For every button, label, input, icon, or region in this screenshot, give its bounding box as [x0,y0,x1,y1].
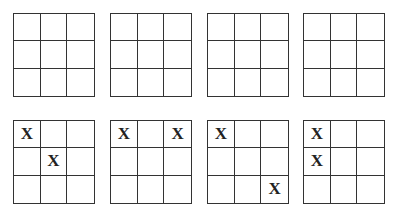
board-cell[interactable] [208,14,235,41]
board-cell[interactable] [304,69,331,96]
board-cell[interactable] [208,148,235,175]
board-cell[interactable] [208,176,235,203]
board-cell[interactable] [111,14,138,41]
board-cell[interactable] [164,14,191,41]
board-cell[interactable] [331,14,358,41]
tic-tac-toe-board [303,13,385,97]
board-cell[interactable] [67,176,94,203]
board-cell[interactable]: X [304,148,331,175]
board-cell[interactable] [261,69,288,96]
board-cell[interactable] [138,176,165,203]
board-cell[interactable] [357,121,384,148]
board-cell[interactable] [41,14,68,41]
board-cell[interactable] [111,41,138,68]
board-cell[interactable] [261,121,288,148]
board-cell[interactable] [331,176,358,203]
board-cell[interactable] [41,176,68,203]
board-cell[interactable] [357,176,384,203]
board-cell[interactable]: X [41,148,68,175]
board-cell[interactable] [331,41,358,68]
board-cell[interactable] [357,14,384,41]
board-cell[interactable] [41,69,68,96]
board-cell[interactable] [14,41,41,68]
board-cell[interactable] [67,14,94,41]
board-cell[interactable] [138,14,165,41]
board-cell[interactable]: X [304,121,331,148]
board-cell[interactable] [164,176,191,203]
board-cell[interactable] [261,41,288,68]
board-cell[interactable] [208,41,235,68]
board-cell[interactable] [357,148,384,175]
tic-tac-toe-board [110,13,192,97]
tic-tac-toe-board: XX [303,120,385,204]
board-cell[interactable]: X [164,121,191,148]
board-cell[interactable] [67,121,94,148]
board-cell[interactable] [208,69,235,96]
board-cell[interactable] [67,41,94,68]
board-cell[interactable] [235,69,262,96]
board-cell[interactable] [67,148,94,175]
tic-tac-toe-board [13,13,95,97]
board-cell[interactable] [235,14,262,41]
board-cell[interactable] [331,69,358,96]
board-cell[interactable] [14,14,41,41]
board-cell[interactable]: X [261,176,288,203]
tic-tac-toe-board: XX [110,120,192,204]
board-cell[interactable] [261,148,288,175]
board-cell[interactable] [164,41,191,68]
board-cell[interactable] [111,69,138,96]
board-cell[interactable] [164,148,191,175]
board-cell[interactable] [138,41,165,68]
board-cell[interactable] [111,148,138,175]
board-cell[interactable] [357,41,384,68]
board-cell[interactable] [138,69,165,96]
board-cell[interactable] [111,176,138,203]
board-cell[interactable] [164,69,191,96]
board-cell[interactable] [331,148,358,175]
board-cell[interactable] [235,41,262,68]
board-cell[interactable] [138,148,165,175]
board-cell[interactable] [304,41,331,68]
board-cell[interactable] [357,69,384,96]
board-cell[interactable] [235,121,262,148]
board-cell[interactable] [67,69,94,96]
board-cell[interactable] [304,14,331,41]
board-cell[interactable] [41,121,68,148]
tic-tac-toe-board: XX [13,120,95,204]
board-cell[interactable] [14,148,41,175]
board-cell[interactable]: X [111,121,138,148]
tic-tac-toe-board: XX [207,120,289,204]
tic-tac-toe-board [207,13,289,97]
board-cell[interactable]: X [208,121,235,148]
board-cell[interactable] [235,148,262,175]
board-cell[interactable] [261,14,288,41]
board-cell[interactable] [41,41,68,68]
board-cell[interactable] [304,176,331,203]
board-cell[interactable] [138,121,165,148]
board-cell[interactable] [14,176,41,203]
board-cell[interactable] [235,176,262,203]
board-cell[interactable] [331,121,358,148]
board-cell[interactable] [14,69,41,96]
board-cell[interactable]: X [14,121,41,148]
